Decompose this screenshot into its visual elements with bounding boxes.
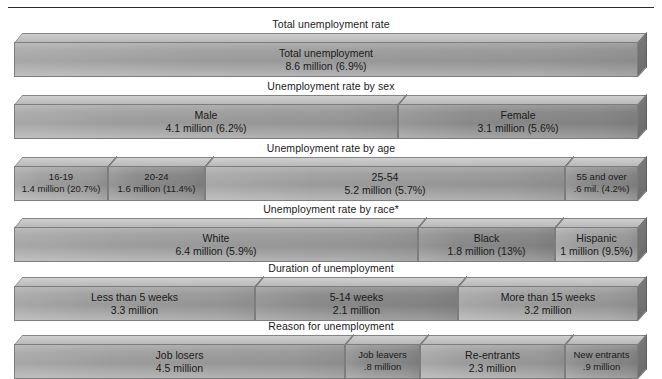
row-title: Total unemployment rate: [0, 18, 662, 30]
bar-segment[interactable]: Job losers4.5 million: [14, 335, 345, 379]
bar-label-name: Job losers: [156, 349, 204, 361]
bar-segment[interactable]: Re-entrants2.3 million: [420, 335, 565, 379]
bar-label-name: 16-19: [49, 171, 73, 182]
bar-side-face: [638, 156, 647, 201]
bar-label: Female3.1 million (5.6%): [398, 109, 638, 135]
bar-label-name: Female: [500, 109, 535, 121]
bar-side-face: [638, 32, 647, 77]
bar-segment[interactable]: Hispanic1 million (9.5%): [555, 218, 638, 262]
bar-label-value: 5.2 million (5.7%): [205, 184, 565, 197]
bar-label-value: 1.4 million (20.7%): [14, 183, 108, 195]
bar-segment[interactable]: Job leavers.8 million: [345, 335, 420, 379]
bar-group: 16-191.4 million (20.7%)20-241.6 million…: [0, 157, 662, 201]
bar-label: Less than 5 weeks3.3 million: [14, 291, 255, 317]
bar-label-value: 2.1 million: [255, 304, 458, 317]
bar-segment[interactable]: Black1.8 million (13%): [418, 218, 555, 262]
bar-label: More than 15 weeks3.2 million: [458, 291, 638, 317]
bar-segment[interactable]: New entrants.9 million: [565, 335, 638, 379]
bar-label-name: 25-54: [372, 171, 399, 183]
bar-label-value: 3.3 million: [14, 304, 255, 317]
bar-segment[interactable]: Total unemployment8.6 million (6.9%): [14, 33, 638, 77]
bar-label: Job leavers.8 million: [345, 349, 420, 373]
bar-label-value: 1 million (9.5%): [555, 245, 638, 258]
bar-label-value: 3.2 million: [458, 304, 638, 317]
bar-segment[interactable]: 20-241.6 million (11.4%): [108, 157, 205, 201]
bar-label-value: 4.1 million (6.2%): [14, 122, 398, 135]
bar-label-name: Black: [474, 232, 500, 244]
row-title: Unemployment rate by race*: [0, 203, 662, 215]
bar-label: Male4.1 million (6.2%): [14, 109, 398, 135]
bar-group: White6.4 million (5.9%)Black1.8 million …: [0, 218, 662, 262]
bar-label-name: 55 and over: [576, 171, 626, 182]
bar-label: 20-241.6 million (11.4%): [108, 171, 205, 195]
row-title: Unemployment rate by sex: [0, 80, 662, 92]
bar-side-face: [638, 334, 647, 379]
bar-label-name: White: [203, 232, 230, 244]
bar-label-name: Re-entrants: [465, 349, 520, 361]
bar-label-name: Male: [195, 109, 218, 121]
bar-label-name: New entrants: [574, 349, 630, 360]
bar-label-value: 1.8 million (13%): [418, 245, 555, 258]
bar-label: 16-191.4 million (20.7%): [14, 171, 108, 195]
bar-label: Re-entrants2.3 million: [420, 349, 565, 375]
bar-label-name: Job leavers: [358, 349, 407, 360]
bar-segment[interactable]: 25-545.2 million (5.7%): [205, 157, 565, 201]
row-title: Unemployment rate by age: [0, 142, 662, 154]
bar-side-face: [638, 94, 647, 139]
bar-label-name: Hispanic: [576, 232, 616, 244]
bar-label: Job losers4.5 million: [14, 349, 345, 375]
bar-label-name: 5-14 weeks: [330, 291, 384, 303]
bar-label-name: Less than 5 weeks: [91, 291, 178, 303]
bar-side-face: [638, 217, 647, 262]
bar-segment[interactable]: Less than 5 weeks3.3 million: [14, 277, 255, 321]
bar-label-value: 3.1 million (5.6%): [398, 122, 638, 135]
row-title: Duration of unemployment: [0, 262, 662, 274]
bar-label-value: .6 mil. (4.2%): [565, 183, 638, 195]
bar-label: Total unemployment8.6 million (6.9%): [14, 47, 638, 73]
bar-group: Male4.1 million (6.2%)Female3.1 million …: [0, 95, 662, 139]
bar-label-name: 20-24: [144, 171, 168, 182]
bar-segment[interactable]: Male4.1 million (6.2%): [14, 95, 398, 139]
bar-group: Total unemployment8.6 million (6.9%): [0, 33, 662, 77]
bar-label-value: 6.4 million (5.9%): [14, 245, 418, 258]
bar-segment[interactable]: 16-191.4 million (20.7%): [14, 157, 108, 201]
bar-segment[interactable]: White6.4 million (5.9%): [14, 218, 418, 262]
bar-label: White6.4 million (5.9%): [14, 232, 418, 258]
bar-segment[interactable]: Female3.1 million (5.6%): [398, 95, 638, 139]
bar-label-value: 1.6 million (11.4%): [108, 183, 205, 195]
bar-segment[interactable]: 5-14 weeks2.1 million: [255, 277, 458, 321]
bar-label: New entrants.9 million: [565, 349, 638, 373]
bar-label: 25-545.2 million (5.7%): [205, 171, 565, 197]
bar-label: 5-14 weeks2.1 million: [255, 291, 458, 317]
bar-label-name: Total unemployment: [279, 47, 373, 59]
bar-group: Job losers4.5 millionJob leavers.8 milli…: [0, 335, 662, 379]
bar-label-value: 8.6 million (6.9%): [14, 60, 638, 73]
bar-label-value: 2.3 million: [420, 362, 565, 375]
bar-label: Hispanic1 million (9.5%): [555, 232, 638, 258]
bar-label-value: .9 million: [565, 361, 638, 373]
unemployment-breakdown-chart: Total unemployment rateTotal unemploymen…: [0, 0, 662, 379]
top-divider-rule: [8, 7, 654, 8]
bar-label: Black1.8 million (13%): [418, 232, 555, 258]
bar-segment[interactable]: 55 and over.6 mil. (4.2%): [565, 157, 638, 201]
bar-label: 55 and over.6 mil. (4.2%): [565, 171, 638, 195]
bar-side-face: [638, 276, 647, 321]
bar-segment[interactable]: More than 15 weeks3.2 million: [458, 277, 638, 321]
row-title: Reason for unemployment: [0, 320, 662, 332]
bar-group: Less than 5 weeks3.3 million5-14 weeks2.…: [0, 277, 662, 321]
bar-label-value: 4.5 million: [14, 362, 345, 375]
bar-label-name: More than 15 weeks: [501, 291, 596, 303]
bar-label-value: .8 million: [345, 361, 420, 373]
